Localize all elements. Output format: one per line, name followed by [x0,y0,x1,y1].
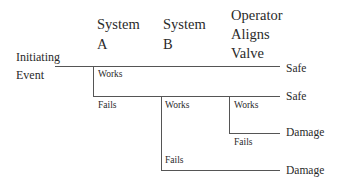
system-a-works-label: Works [98,70,123,80]
header-operator-line3: Valve [231,46,264,61]
system-b-branch-line [161,96,162,171]
header-operator-line2: Aligns [231,27,270,42]
header-initiating-event-line1: Initiating [16,51,60,63]
header-system-a-line1: System [97,17,140,32]
system-b-fails-line [161,170,280,171]
system-a-fails-line [93,96,280,97]
header-system-a-line2: A [97,37,107,52]
operator-works-label: Works [234,101,259,111]
header-operator-line1: Operator [231,8,283,23]
system-b-fails-label: Fails [165,156,183,166]
outcome-2: Safe [286,91,306,103]
operator-fails-line [229,133,280,134]
outcome-4: Damage [286,165,324,177]
outcome-1: Safe [286,63,306,75]
header-system-b-line1: System [163,17,206,32]
operator-fails-label: Fails [234,138,252,148]
system-a-fails-label: Fails [98,101,116,111]
outcome-3: Damage [286,127,324,139]
initiating-event-line [55,66,280,67]
header-initiating-event-line2: Event [16,69,44,81]
system-a-branch-line [93,66,94,97]
operator-branch-line [229,96,230,134]
header-system-b-line2: B [163,37,173,52]
system-b-works-label: Works [165,101,190,111]
